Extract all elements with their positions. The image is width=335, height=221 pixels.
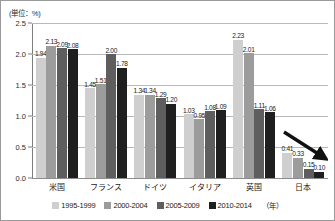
legend-label: 1995-1999: [61, 201, 95, 210]
bar-value-label: 2.08: [64, 42, 82, 49]
y-axis-tick-label: 2.5: [0, 19, 26, 28]
y-axis-tick-mark: [28, 178, 32, 179]
bar-value-label: 2.23: [229, 32, 247, 39]
bar[interactable]: [106, 54, 116, 178]
bar-value-label: 0.33: [289, 150, 307, 157]
bar-value-label: 2.01: [240, 46, 258, 53]
x-axis-category-label: 日本: [295, 181, 311, 192]
y-axis-tick-mark: [28, 116, 32, 117]
bar[interactable]: [96, 84, 106, 178]
legend-label: 2010-2014: [218, 201, 252, 210]
bar[interactable]: [184, 114, 194, 178]
x-axis-category-label: 米国: [49, 181, 65, 192]
y-axis-tick-mark: [28, 85, 32, 86]
bar[interactable]: [134, 95, 144, 178]
bar-group: 1.030.951.081.09: [184, 23, 226, 178]
gridline: [32, 178, 328, 179]
x-axis-category-label: 英国: [246, 181, 262, 192]
y-axis-tick-label: 2.0: [0, 50, 26, 59]
bar[interactable]: [117, 68, 127, 178]
bar[interactable]: [205, 111, 215, 178]
x-axis-category-label: ドイツ: [143, 181, 167, 192]
bar-group: 0.410.330.150.10: [282, 23, 324, 178]
y-axis-tick-label: 1.5: [0, 81, 26, 90]
bar-group: 2.232.011.111.06: [233, 23, 275, 178]
legend-swatch: [157, 202, 164, 209]
legend-item[interactable]: 2005-2009: [157, 201, 200, 210]
legend-item[interactable]: 2000-2004: [104, 201, 147, 210]
bar[interactable]: [244, 53, 254, 178]
bar[interactable]: [145, 95, 155, 178]
y-axis-tick-label: 1.0: [0, 112, 26, 121]
bar-value-label: 1.06: [261, 105, 279, 112]
legend: 1995-19992000-20042005-20092010-2014（年）: [1, 200, 334, 211]
bar[interactable]: [233, 40, 243, 178]
plot-area: 1.942.132.092.081.451.512.001.781.341.34…: [32, 23, 328, 178]
bar[interactable]: [254, 109, 264, 178]
bar[interactable]: [85, 88, 95, 178]
chart-container: (単位：%) 1.942.132.092.081.451.512.001.781…: [0, 0, 335, 221]
legend-swatch: [209, 202, 216, 209]
y-axis-tick-mark: [28, 54, 32, 55]
bar-value-label: 2.00: [102, 47, 120, 54]
legend-label: 2000-2004: [113, 201, 147, 210]
x-axis-category-label: イタリア: [189, 181, 221, 192]
bar[interactable]: [166, 104, 176, 178]
bar[interactable]: [194, 119, 204, 178]
bar[interactable]: [265, 112, 275, 178]
bar[interactable]: [36, 58, 46, 178]
bar[interactable]: [57, 48, 67, 178]
bar-value-label: 1.09: [212, 103, 230, 110]
legend-item[interactable]: 1995-1999: [52, 201, 95, 210]
bar[interactable]: [314, 172, 324, 178]
legend-swatch: [104, 202, 111, 209]
bar-group: 1.942.132.092.08: [36, 23, 78, 178]
y-axis-tick-label: 0.5: [0, 143, 26, 152]
y-axis-tick-label: 0.0: [0, 174, 26, 183]
x-axis-category-label: フランス: [90, 181, 122, 192]
y-axis-tick-mark: [28, 23, 32, 24]
y-axis-tick-mark: [28, 147, 32, 148]
bar[interactable]: [46, 46, 56, 178]
bar-value-label: 1.20: [162, 96, 180, 103]
bar-group: 1.341.341.291.20: [134, 23, 176, 178]
bar[interactable]: [68, 49, 78, 178]
bar-value-label: 0.10: [310, 164, 328, 171]
unit-label: (単位：%): [9, 7, 40, 18]
bar[interactable]: [156, 98, 166, 178]
legend-year-note: （年）: [262, 200, 283, 211]
legend-swatch: [52, 202, 59, 209]
legend-label: 2005-2009: [166, 201, 200, 210]
bar-group: 1.451.512.001.78: [85, 23, 127, 178]
bar-value-label: 1.78: [113, 60, 131, 67]
bar[interactable]: [216, 110, 226, 178]
legend-item[interactable]: 2010-2014: [209, 201, 252, 210]
